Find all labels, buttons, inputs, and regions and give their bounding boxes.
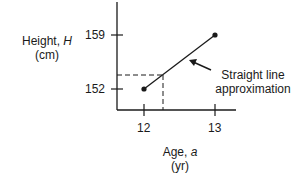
approximation-line: [144, 35, 215, 89]
x-axis-label: Age, a (yr): [140, 145, 220, 173]
x-tick-label-13: 13: [208, 121, 221, 135]
chart: Height, H (cm) 159 152 12 13 Age, a (yr)…: [0, 0, 296, 180]
y-axis-unit: (cm): [12, 48, 82, 62]
x-axis-variable: a: [191, 145, 198, 159]
y-tick-label-152: 152: [85, 82, 105, 96]
annotation-label: Straight line approximation: [210, 68, 296, 96]
data-point-13-159: [212, 32, 217, 37]
x-axis-unit: (yr): [140, 159, 220, 173]
y-axis-variable: H: [63, 34, 72, 48]
annotation-line-1: Straight line: [210, 68, 296, 82]
y-axis-label-text: Height,: [22, 34, 63, 48]
y-axis-label: Height, H (cm): [12, 34, 82, 62]
data-point-12-152: [141, 86, 146, 91]
annotation-line-2: approximation: [210, 82, 296, 96]
y-tick-label-159: 159: [85, 28, 105, 42]
x-tick-label-12: 12: [137, 121, 150, 135]
x-axis-label-text: Age,: [163, 145, 191, 159]
